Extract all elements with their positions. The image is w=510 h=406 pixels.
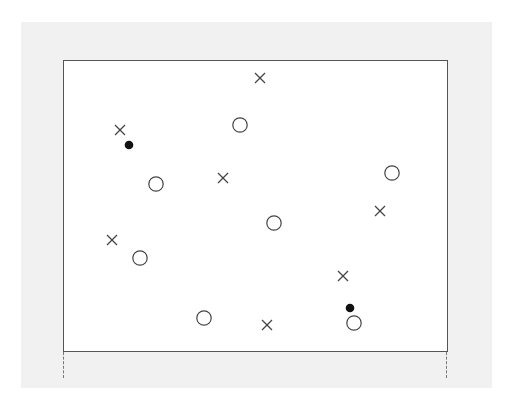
cross-marker	[115, 125, 125, 135]
circle-marker	[149, 177, 163, 191]
filled-dot-marker	[346, 304, 355, 313]
cross-marker	[262, 320, 272, 330]
cross-markers	[107, 73, 385, 330]
circle-markers	[133, 118, 399, 330]
filled-dot-markers	[125, 141, 355, 313]
circle-marker	[133, 251, 147, 265]
cross-marker	[255, 73, 265, 83]
cross-marker	[107, 235, 117, 245]
cross-marker	[375, 206, 385, 216]
circle-marker	[385, 166, 399, 180]
circle-marker	[197, 311, 211, 325]
circle-marker	[233, 118, 247, 132]
circle-marker	[267, 216, 281, 230]
filled-dot-marker	[125, 141, 134, 150]
scatter-plot	[0, 0, 510, 406]
cross-marker	[338, 271, 348, 281]
circle-marker	[347, 316, 361, 330]
cross-marker	[218, 173, 228, 183]
